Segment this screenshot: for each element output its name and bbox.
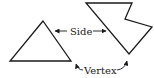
vertex-arrow-left bbox=[76, 64, 83, 70]
triangle-shape bbox=[10, 21, 71, 61]
polygon-diagram: Side Vertex bbox=[0, 0, 154, 78]
vertex-arrow-right bbox=[117, 61, 127, 70]
vertex-label: Vertex bbox=[83, 65, 117, 76]
concave-polygon-shape bbox=[86, 3, 152, 54]
side-label: Side bbox=[70, 26, 92, 37]
